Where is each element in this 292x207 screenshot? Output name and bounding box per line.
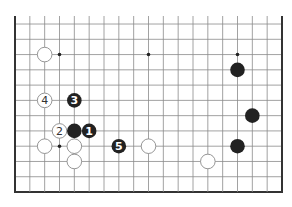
black-stone: [67, 124, 82, 139]
black-stone: [230, 63, 245, 78]
white-stone-icon: [37, 47, 52, 62]
star-point: [236, 53, 240, 57]
star-point: [147, 53, 151, 57]
white-stone-icon: [67, 139, 82, 154]
black-stone-icon: [245, 108, 260, 123]
move-number-label: 2: [56, 125, 63, 138]
white-stone: [141, 139, 156, 154]
white-stone: [37, 139, 52, 154]
move-number-label: 5: [115, 140, 123, 153]
black-stone: 1: [82, 124, 97, 139]
black-stone: [245, 108, 260, 123]
white-stone: 4: [37, 93, 52, 108]
go-board: 43215: [0, 0, 292, 207]
move-number-label: 3: [71, 94, 79, 107]
black-stone-icon: [230, 139, 245, 154]
move-number-label: 1: [85, 125, 93, 138]
white-stone: [201, 154, 216, 169]
black-stone: 5: [112, 139, 127, 154]
white-stone-icon: [201, 154, 216, 169]
move-number-label: 4: [41, 94, 48, 107]
white-stone-icon: [67, 154, 82, 169]
white-stone: [67, 139, 82, 154]
black-stone-icon: [230, 63, 245, 78]
white-stone-icon: [141, 139, 156, 154]
black-stone: [230, 139, 245, 154]
star-point: [58, 53, 62, 57]
black-stone-icon: [67, 124, 82, 139]
white-stone: [37, 47, 52, 62]
white-stone-icon: [37, 139, 52, 154]
black-stone: 3: [67, 93, 82, 108]
white-stone: 2: [52, 124, 67, 139]
star-point: [58, 144, 62, 148]
board-grid: [15, 16, 282, 193]
white-stone: [67, 154, 82, 169]
